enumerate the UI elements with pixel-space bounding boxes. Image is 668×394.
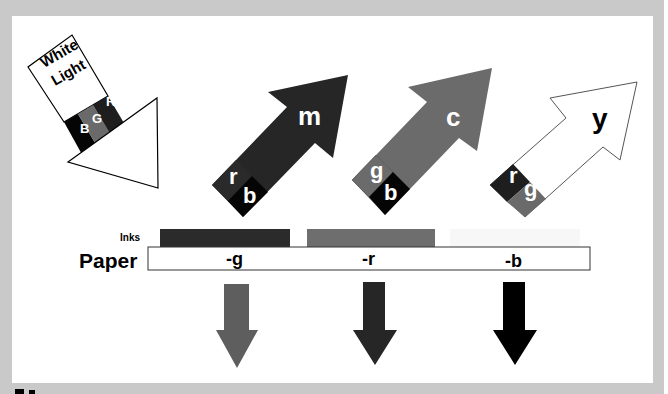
magenta-component-r: r	[229, 164, 238, 189]
subtractive-color-diagram: White Light B G R r b m g b c r g y	[0, 0, 668, 394]
paper-label: Paper	[79, 249, 137, 272]
magenta-arrow: r b m	[212, 75, 348, 217]
cyan-arrow-label: c	[446, 102, 460, 132]
inks-label: Inks	[120, 232, 140, 243]
cyan-component-b: b	[384, 180, 397, 205]
yellow-component-r: r	[509, 163, 518, 188]
band-label-g: G	[92, 111, 102, 126]
cyan-component-g: g	[370, 158, 383, 183]
band-label-b: B	[80, 121, 89, 136]
absorbed-blue-arrow	[493, 282, 537, 365]
yellow-component-g: g	[524, 176, 537, 201]
figure-number-fragment	[15, 389, 35, 394]
absorption-minus-b: -b	[505, 251, 522, 271]
absorbed-green-arrow	[216, 284, 258, 368]
cyan-arrow: g b c	[352, 68, 492, 215]
white-light-arrow: White Light B G R	[28, 35, 158, 188]
yellow-ink-bar	[450, 229, 580, 247]
yellow-arrow-label: y	[592, 103, 608, 134]
magenta-ink-bar	[160, 229, 290, 247]
absorbed-red-arrow	[353, 282, 397, 365]
absorption-minus-r: -r	[362, 249, 375, 269]
cyan-ink-bar	[307, 229, 435, 247]
absorption-minus-g: -g	[226, 249, 243, 269]
magenta-arrow-label: m	[298, 101, 321, 131]
magenta-component-b: b	[243, 183, 256, 208]
yellow-arrow: r g y	[490, 82, 637, 217]
band-label-r: R	[106, 94, 116, 109]
